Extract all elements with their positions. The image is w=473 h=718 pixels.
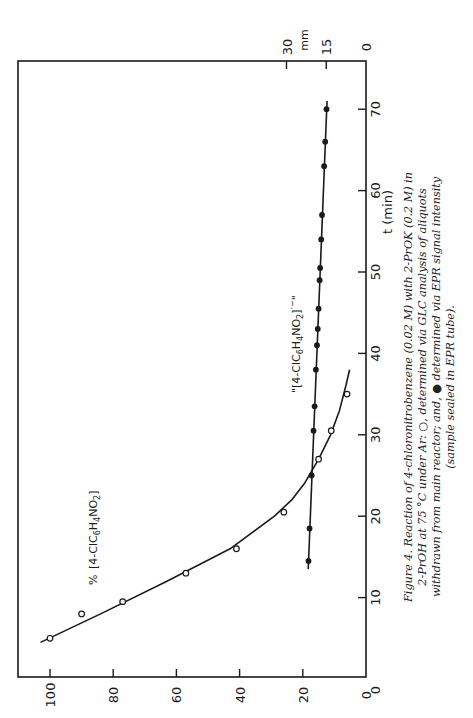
y-tick-label: 100 (43, 683, 58, 708)
x-tick-label: 50 (368, 264, 383, 281)
open-circle-point (183, 570, 189, 576)
filled-circle-point (315, 326, 321, 332)
x-tick-label: 40 (368, 345, 383, 362)
y2-tick-label: 30 (280, 39, 295, 56)
rotated-figure: 020406080100 102030405060700 01530 t (mi… (0, 0, 473, 718)
filled-circle-point (324, 106, 330, 112)
filled-circle-point (309, 473, 315, 479)
open-series-label: % [4-ClC6H4NO2] (87, 491, 102, 585)
filled-circle-series (306, 101, 330, 569)
percent-sign: % (87, 575, 100, 585)
caption-line: (sample sealed in EPR tube). (444, 305, 457, 469)
filled-circle-point (313, 367, 319, 373)
y-tick-label: 80 (106, 687, 121, 704)
y-tick-label: 20 (296, 687, 311, 704)
filled-circle-point (307, 526, 313, 532)
x-tick-label: 70 (368, 101, 383, 118)
open-circle-point (120, 599, 126, 605)
filled-circle-point (311, 428, 317, 434)
filled-circle-point (322, 139, 328, 145)
open-circle-point (328, 428, 334, 434)
filled-series-label: "[4-ClC6H4NO2]·−" (288, 295, 305, 393)
filled-circle-point (318, 237, 324, 243)
caption-line: 2-PrOH at 75 °C under Ar: ○, determined … (416, 188, 429, 587)
filled-circle-point (321, 163, 327, 169)
caption-line: withdrawn from main reactor; and, ● dete… (430, 176, 443, 597)
open-circle-point (47, 636, 53, 642)
filled-circle-point (316, 306, 322, 312)
y-tick-label: 60 (169, 687, 184, 704)
open-circle-point (79, 611, 85, 617)
x-tick-label: 10 (368, 589, 383, 606)
open-circle-point (234, 546, 240, 552)
filled-circle-point (319, 212, 325, 218)
x-axis-title: t (min) (380, 190, 395, 234)
filled-series-formula: "[4-ClC6H4NO2]·−" (288, 295, 305, 393)
filled-circle-point (317, 277, 323, 283)
filled-circle-point (317, 265, 323, 271)
y-tick-label: 40 (233, 687, 248, 704)
time-axis: 102030405060700 (358, 101, 383, 694)
filled-circle-point (312, 403, 318, 409)
filled-series-fit-line (308, 101, 327, 569)
x-tick-label: 0 (368, 686, 383, 694)
open-series-formula: [4-ClC6H4NO2] (87, 491, 102, 569)
y2-tick-label: 15 (319, 39, 334, 56)
filled-circle-point (314, 342, 320, 348)
open-circle-point (344, 391, 350, 397)
mm-axis: 01530 (280, 39, 375, 69)
x-tick-label: 20 (368, 508, 383, 525)
caption-line: Figure 4. Reaction of 4-chloronitrobenze… (402, 172, 415, 603)
filled-circle-point (306, 558, 312, 564)
open-circle-point (316, 456, 322, 462)
x-tick-label: 30 (368, 427, 383, 444)
y2-tick-label: 0 (359, 43, 374, 51)
y2-axis-unit: mm (298, 29, 311, 50)
open-circle-point (281, 509, 287, 515)
figure-caption: Figure 4. Reaction of 4-chloronitrobenze… (402, 172, 457, 603)
percent-axis: 020406080100 (43, 669, 374, 707)
